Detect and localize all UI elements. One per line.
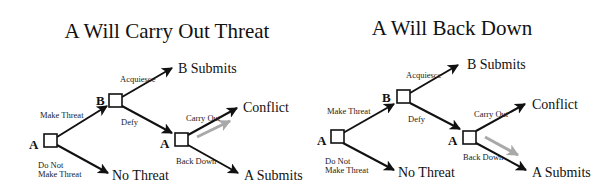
decision-node-b (109, 94, 122, 107)
action-label-carry-out: Carry Out (186, 113, 221, 123)
outcome-no-threat: No Threat (112, 168, 169, 183)
action-label-make-threat-2: Make Threat (325, 165, 369, 175)
decision-node-a-root (331, 130, 344, 143)
player-label-a: A (160, 136, 170, 151)
action-label-make-threat: Make Threat (40, 110, 84, 120)
diagram-title: A Will Carry Out Threat (65, 19, 270, 43)
player-label-a: A (29, 137, 39, 152)
outcome-a-submits: A Submits (532, 165, 591, 180)
diagram-carry-out-threat: A Will Carry Out Threat A B A Make Threa… (29, 19, 303, 183)
outcome-conflict: Conflict (532, 97, 578, 112)
action-label-back-down: Back Down (463, 152, 504, 162)
diagram-back-down: A Will Back Down A B A Make Threat Do No… (317, 16, 591, 180)
player-label-b: B (96, 93, 105, 108)
player-label-b: B (382, 90, 391, 105)
player-label-a: A (448, 133, 458, 148)
decision-node-a-root (44, 134, 57, 147)
outcome-a-submits: A Submits (244, 168, 303, 183)
action-label-acquiesce: Acquiesce (406, 70, 442, 80)
diagram-title: A Will Back Down (372, 16, 533, 40)
action-label-make-threat-2: Make Threat (38, 169, 82, 179)
decision-node-b (397, 90, 410, 103)
decision-node-a-second (463, 131, 476, 144)
action-label-acquiesce: Acquiesce (120, 74, 156, 84)
outcome-b-submits: B Submits (467, 57, 526, 72)
outcome-b-submits: B Submits (178, 61, 237, 76)
decision-node-a-second (175, 133, 188, 146)
outcome-conflict: Conflict (243, 100, 289, 115)
highlight-arrow-icon (197, 121, 230, 137)
game-trees: A Will Carry Out Threat A B A Make Threa… (0, 0, 615, 186)
player-label-a: A (317, 133, 327, 148)
action-label-make-threat: Make Threat (327, 106, 371, 116)
action-label-defy: Defy (408, 114, 426, 124)
outcome-no-threat: No Threat (398, 165, 455, 180)
action-label-carry-out: Carry Out (474, 109, 509, 119)
action-label-back-down: Back Down (176, 156, 217, 166)
action-label-defy: Defy (121, 117, 139, 127)
